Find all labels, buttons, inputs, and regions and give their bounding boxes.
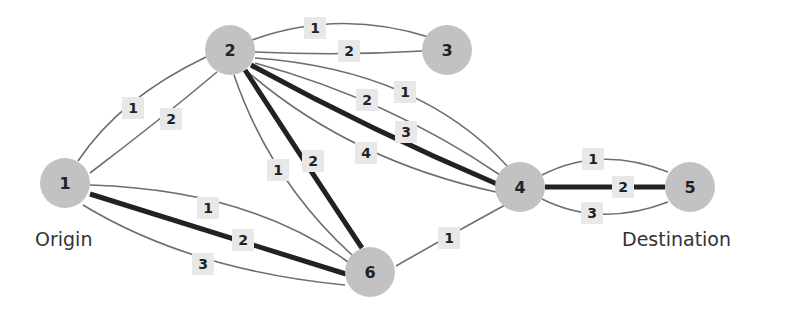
edge-label-2-3-1: 1 [304, 17, 326, 39]
edge-2-6-route-1 [234, 75, 352, 255]
node-3: 3 [422, 25, 472, 75]
svg-text:1: 1 [400, 84, 410, 100]
edge-label-4-5-3: 3 [581, 202, 603, 224]
edge-4-5-route-1 [542, 159, 668, 175]
edge-label-1-6-1: 1 [197, 197, 219, 219]
node-4: 4 [495, 162, 545, 212]
svg-text:1: 1 [128, 100, 138, 116]
origin-caption: Origin [35, 228, 92, 250]
edge-4-5-route-3 [542, 199, 668, 214]
edge-2-4-route-2 [255, 63, 500, 175]
edge-label-1-2-1: 1 [122, 97, 144, 119]
edge-label-1-2-2: 2 [160, 108, 182, 130]
svg-text:1: 1 [444, 230, 454, 246]
svg-text:5: 5 [684, 178, 695, 197]
svg-text:2: 2 [362, 92, 372, 108]
svg-text:3: 3 [198, 256, 208, 272]
svg-text:2: 2 [166, 111, 176, 127]
edge-label-1-6-3: 3 [192, 253, 214, 275]
edge-2-3-route-1 [252, 23, 432, 40]
edge-label-2-4-4: 4 [355, 142, 377, 164]
edge-label-6-4-1: 1 [438, 227, 460, 249]
node-6: 6 [345, 247, 395, 297]
edge-label-1-6-2: 2 [232, 229, 254, 251]
svg-text:3: 3 [587, 205, 597, 221]
svg-text:2: 2 [238, 232, 248, 248]
edge-label-2-3-2: 2 [338, 40, 360, 62]
svg-text:1: 1 [273, 162, 283, 178]
edge-label-2-4-2: 2 [356, 89, 378, 111]
edge-label-4-5-1: 1 [582, 148, 604, 170]
svg-text:4: 4 [514, 178, 525, 197]
edge-label-2-6-2: 2 [302, 150, 324, 172]
svg-text:2: 2 [344, 43, 354, 59]
svg-text:2: 2 [224, 41, 235, 60]
destination-caption: Destination [622, 228, 731, 250]
edge-1-6-route-1 [90, 185, 348, 262]
edge-label-2-4-1: 1 [394, 81, 416, 103]
edge-label-4-5-2: 2 [612, 176, 634, 198]
svg-text:4: 4 [361, 145, 371, 161]
node-5: 5 [665, 162, 715, 212]
svg-text:2: 2 [618, 179, 628, 195]
network-diagram: 1 2 1 2 1 2 3 4 1 2 1 2 3 1 1 2 3 1 2 3 … [0, 0, 786, 322]
svg-text:3: 3 [401, 124, 411, 140]
edge-label-2-6-1: 1 [267, 159, 289, 181]
node-2: 2 [205, 25, 255, 75]
svg-text:6: 6 [364, 263, 375, 282]
svg-text:1: 1 [588, 151, 598, 167]
node-1: 1 [40, 158, 90, 208]
svg-text:1: 1 [59, 174, 70, 193]
svg-text:3: 3 [441, 41, 452, 60]
edge-label-2-4-3: 3 [395, 121, 417, 143]
svg-text:1: 1 [203, 200, 213, 216]
svg-text:2: 2 [308, 153, 318, 169]
svg-text:1: 1 [310, 20, 320, 36]
